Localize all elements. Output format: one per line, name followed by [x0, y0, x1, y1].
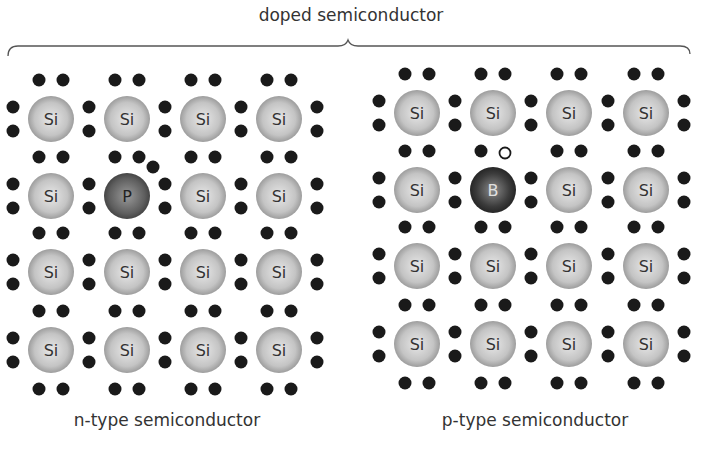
si-atom: Si	[104, 96, 150, 142]
si-atom: Si	[623, 243, 669, 289]
si-atom: Si	[623, 167, 669, 213]
electron	[133, 305, 146, 318]
electron	[261, 227, 274, 240]
electron	[373, 196, 386, 209]
electron	[235, 332, 248, 345]
electron	[133, 151, 146, 164]
si-atom: Si	[546, 243, 592, 289]
electron	[652, 221, 665, 234]
electron	[499, 299, 512, 312]
electron	[159, 101, 172, 114]
electron	[185, 74, 198, 87]
electron	[235, 278, 248, 291]
svg-text:Si: Si	[639, 335, 654, 354]
electron	[235, 101, 248, 114]
electron	[628, 299, 641, 312]
svg-text:B: B	[488, 181, 499, 200]
electron	[311, 178, 324, 191]
electron	[678, 95, 691, 108]
si-atom: Si	[256, 96, 302, 142]
electron	[33, 383, 46, 396]
electron	[423, 299, 436, 312]
electron	[652, 145, 665, 158]
electron	[499, 221, 512, 234]
electron	[33, 227, 46, 240]
si-atom: Si	[546, 90, 592, 136]
electron	[652, 68, 665, 81]
electron	[602, 272, 615, 285]
semiconductor-lattices: SiSiSiSiSiPSiSiSiSiSiSiSiSiSiSiSiSiSiSiS…	[0, 0, 702, 449]
svg-text:Si: Si	[272, 263, 287, 282]
electron	[57, 383, 70, 396]
si-atom: Si	[394, 167, 440, 213]
electron	[628, 221, 641, 234]
electron	[551, 377, 564, 390]
electron	[525, 326, 538, 339]
svg-text:Si: Si	[272, 187, 287, 206]
electron	[185, 383, 198, 396]
svg-text:Si: Si	[639, 104, 654, 123]
electron	[311, 202, 324, 215]
electron	[678, 272, 691, 285]
svg-text:Si: Si	[562, 257, 577, 276]
electron	[7, 254, 20, 267]
electron	[551, 68, 564, 81]
si-atom: Si	[470, 321, 516, 367]
electron	[525, 272, 538, 285]
svg-text:Si: Si	[410, 104, 425, 123]
si-atom: Si	[623, 90, 669, 136]
svg-text:Si: Si	[272, 341, 287, 360]
electron	[449, 95, 462, 108]
electron	[7, 332, 20, 345]
electron	[551, 299, 564, 312]
si-atom: Si	[180, 327, 226, 373]
electron	[525, 119, 538, 132]
electron	[311, 332, 324, 345]
electron	[109, 383, 122, 396]
electron	[678, 196, 691, 209]
electron	[373, 272, 386, 285]
electron	[83, 101, 96, 114]
electron	[399, 221, 412, 234]
electron	[235, 202, 248, 215]
electron	[57, 305, 70, 318]
electron	[678, 172, 691, 185]
electron	[209, 383, 222, 396]
electron	[449, 248, 462, 261]
electron	[235, 356, 248, 369]
electron	[475, 145, 488, 158]
svg-text:Si: Si	[272, 110, 287, 129]
electron	[7, 101, 20, 114]
electron	[83, 125, 96, 138]
svg-text:Si: Si	[486, 257, 501, 276]
electron	[185, 227, 198, 240]
electron	[602, 196, 615, 209]
svg-text:P: P	[122, 187, 132, 206]
electron	[209, 74, 222, 87]
electron	[449, 119, 462, 132]
svg-text:Si: Si	[486, 335, 501, 354]
si-atom: Si	[256, 173, 302, 219]
electron	[261, 74, 274, 87]
si-atom: Si	[28, 327, 74, 373]
electron	[7, 178, 20, 191]
svg-text:Si: Si	[120, 110, 135, 129]
si-atom: Si	[394, 243, 440, 289]
si-atom: Si	[180, 96, 226, 142]
si-atom: Si	[470, 90, 516, 136]
electron	[185, 305, 198, 318]
si-atom: Si	[256, 327, 302, 373]
electron	[525, 248, 538, 261]
svg-text:Si: Si	[120, 341, 135, 360]
electron	[373, 350, 386, 363]
n-type-caption: n-type semiconductor	[17, 410, 317, 430]
si-atom: Si	[104, 249, 150, 295]
electron	[399, 299, 412, 312]
electron	[311, 125, 324, 138]
electron	[575, 299, 588, 312]
electron	[311, 278, 324, 291]
electron	[311, 356, 324, 369]
electron	[449, 326, 462, 339]
electron	[678, 350, 691, 363]
electron	[652, 377, 665, 390]
